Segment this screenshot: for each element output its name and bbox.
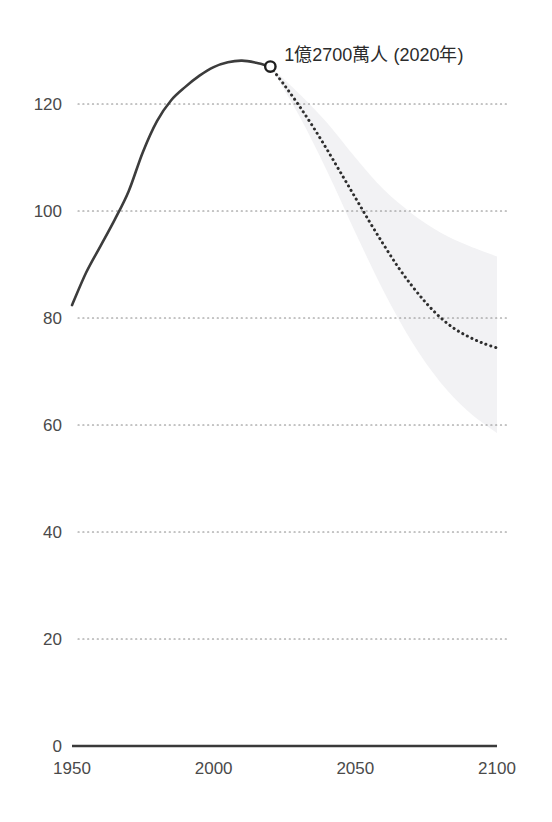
y-axis-label-100: 100 (34, 202, 62, 221)
series-line-historical (72, 61, 270, 305)
x-axis-labels-group: 1950200020502100 (53, 759, 516, 778)
annotation-marker (265, 61, 275, 71)
y-axis-label-120: 120 (34, 95, 62, 114)
y-axis-label-0: 0 (53, 737, 62, 756)
x-axis-label-2100: 2100 (478, 759, 516, 778)
x-axis-label-2050: 2050 (336, 759, 374, 778)
uncertainty-band-group (270, 67, 497, 433)
y-axis-label-20: 20 (43, 630, 62, 649)
annotation-group: 1億2700萬人 (2020年) (265, 45, 463, 72)
y-axis-label-40: 40 (43, 523, 62, 542)
population-chart: 日本人口推移（億人） 020406080100120 1950200020502… (0, 0, 552, 822)
y-axis-label-60: 60 (43, 416, 62, 435)
x-axis-label-1950: 1950 (53, 759, 91, 778)
x-axis-label-2000: 2000 (195, 759, 233, 778)
chart-svg: 020406080100120 1950200020502100 1億2700萬… (0, 0, 552, 822)
annotation-label: 1億2700萬人 (2020年) (284, 45, 463, 65)
y-axis-label-80: 80 (43, 309, 62, 328)
y-axis-labels-group: 020406080100120 (34, 95, 62, 756)
uncertainty-band (270, 67, 497, 433)
